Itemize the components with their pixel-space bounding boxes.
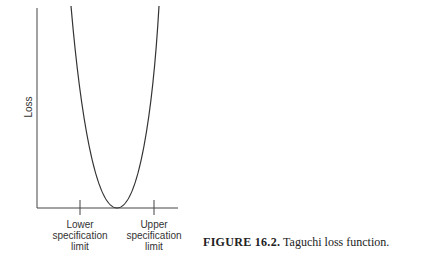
y-axis-label: Loss	[23, 87, 37, 127]
figure-caption-text: Taguchi loss function.	[283, 235, 389, 249]
loss-curve	[71, 6, 159, 208]
upper-spec-label: Upper specification limit	[114, 219, 194, 252]
figure-caption: FIGURE 16.2. Taguchi loss function.	[203, 235, 389, 250]
figure-number: FIGURE 16.2.	[203, 235, 280, 249]
lower-spec-label: Lower specification limit	[40, 219, 120, 252]
